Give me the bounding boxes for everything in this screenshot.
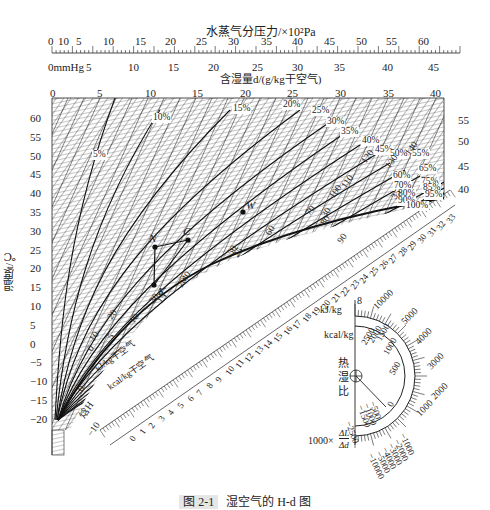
right-temperature-tick: 55 bbox=[458, 115, 469, 126]
rh-label: 20% bbox=[282, 100, 301, 110]
rh-label: 65% bbox=[418, 164, 437, 174]
humidity-axis-title: 含湿量d/(g/kg干空气) bbox=[220, 74, 321, 85]
temperature-tick: 10 bbox=[30, 301, 41, 312]
mmhg-tick: 30 bbox=[292, 62, 303, 73]
temperature-tick: 0 bbox=[30, 339, 36, 350]
temperature-tick: 25 bbox=[30, 245, 41, 256]
rh-label: 35% bbox=[340, 127, 359, 137]
pressure-tick: 60 bbox=[418, 36, 429, 47]
pressure-tick: 55 bbox=[386, 36, 397, 47]
humidity-tick: 0 bbox=[50, 88, 56, 99]
pressure-tick: 5 bbox=[76, 36, 82, 47]
pressure-tick: 40 bbox=[292, 36, 303, 47]
pressure-tick: 20 bbox=[165, 36, 176, 47]
right-temperature-tick: 45 bbox=[458, 161, 469, 172]
pressure-tick: 45 bbox=[324, 36, 335, 47]
point-w-label: W bbox=[246, 200, 255, 211]
humidity-tick: 40 bbox=[430, 88, 441, 99]
humidity-tick: 10 bbox=[145, 88, 156, 99]
pressure-tick: 10 bbox=[58, 36, 69, 47]
protractor-title-char-2: 湿 bbox=[338, 372, 349, 383]
humidity-tick: 20 bbox=[240, 88, 251, 99]
temperature-tick: 15 bbox=[30, 282, 41, 293]
pressure-tick: 50 bbox=[356, 36, 367, 47]
temperature-tick: −15 bbox=[30, 395, 47, 406]
pressure-tick: 35 bbox=[261, 36, 272, 47]
mmhg-tick: 25 bbox=[252, 62, 263, 73]
temperature-tick: −5 bbox=[30, 357, 42, 368]
point-n-label: N bbox=[149, 233, 156, 244]
temperature-tick: −10 bbox=[30, 376, 47, 387]
rh-label: 95% bbox=[424, 190, 443, 200]
pressure-tick: 25 bbox=[196, 36, 207, 47]
humidity-tick: 25 bbox=[287, 88, 298, 99]
temperature-tick: 40 bbox=[30, 188, 41, 199]
point-n-marker bbox=[152, 244, 157, 249]
right-temperature-tick: 40 bbox=[458, 184, 469, 195]
point-c-marker bbox=[185, 237, 190, 242]
rh-label: 100% bbox=[405, 201, 429, 211]
temperature-tick: 30 bbox=[30, 226, 41, 237]
temperature-axis-title: 温度t/℃ bbox=[4, 250, 15, 291]
caption-text: 湿空气的 H-d 图 bbox=[226, 495, 311, 509]
point-c-label: C bbox=[183, 226, 190, 237]
pressure-tick: 30 bbox=[228, 36, 239, 47]
point-k-marker bbox=[151, 282, 156, 287]
mmhg-tick: 40 bbox=[382, 62, 393, 73]
temperature-tick: 5 bbox=[30, 320, 36, 331]
humidity-tick: 15 bbox=[192, 88, 203, 99]
rh-label: 10% bbox=[152, 113, 171, 123]
rh-label: 15% bbox=[232, 104, 251, 114]
mmhg-label: 0mmHg bbox=[48, 62, 84, 73]
pressure-axis bbox=[52, 46, 460, 53]
protractor-title-char-3: 比 bbox=[338, 386, 349, 397]
right-temperature-tick: 50 bbox=[458, 136, 469, 147]
pressure-tick: 10 bbox=[103, 36, 114, 47]
figure-caption: 图 2-1湿空气的 H-d 图 bbox=[0, 492, 490, 510]
pressure-tick: 15 bbox=[135, 36, 146, 47]
pressure-tick: 0 bbox=[48, 36, 54, 47]
temperature-tick: 60 bbox=[30, 113, 41, 124]
ratio-denominator: Δd bbox=[339, 441, 349, 450]
mmhg-tick: 5 bbox=[86, 62, 92, 73]
temperature-tick: 45 bbox=[30, 169, 41, 180]
temperature-tick: 50 bbox=[30, 151, 41, 162]
mmhg-tick: 20 bbox=[208, 62, 219, 73]
mmhg-tick: 45 bbox=[428, 62, 439, 73]
rh-label: 5% bbox=[92, 150, 107, 160]
humidity-tick: 30 bbox=[335, 88, 346, 99]
point-w-marker bbox=[240, 209, 245, 214]
caption-number: 图 2-1 bbox=[179, 495, 218, 509]
ratio-label: 1000× bbox=[308, 436, 334, 446]
mmhg-tick: 10 bbox=[128, 62, 139, 73]
rh-label: 25% bbox=[311, 106, 330, 116]
protractor-kcal-unit: kcal/kg bbox=[324, 330, 353, 340]
protractor-title-char-1: 热 bbox=[338, 358, 349, 369]
temperature-tick: 20 bbox=[30, 263, 41, 274]
mmhg-tick: 35 bbox=[334, 62, 345, 73]
humidity-tick: 35 bbox=[383, 88, 394, 99]
protractor-kj-unit: kJ/kg bbox=[320, 305, 342, 315]
temperature-tick: 55 bbox=[30, 132, 41, 143]
mmhg-tick: 15 bbox=[168, 62, 179, 73]
temperature-tick: −20 bbox=[30, 414, 47, 425]
humidity-tick: 5 bbox=[97, 88, 103, 99]
temperature-tick: 35 bbox=[30, 207, 41, 218]
protractor-top-value: 8 bbox=[357, 296, 362, 306]
